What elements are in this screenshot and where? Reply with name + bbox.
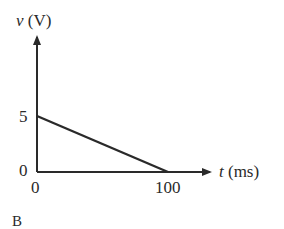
y-axis-label: v (V)	[16, 11, 51, 30]
x-axis-label: t (ms)	[219, 162, 259, 181]
panel-label: B	[12, 213, 22, 229]
chart-figure: v (V) t (ms) 5 0 0 100 B	[0, 0, 284, 229]
y-tick-0: 0	[19, 161, 28, 180]
x-tick-0: 0	[31, 178, 40, 197]
y-tick-5: 5	[19, 107, 28, 126]
data-line	[37, 116, 168, 172]
x-tick-100: 100	[155, 178, 181, 197]
